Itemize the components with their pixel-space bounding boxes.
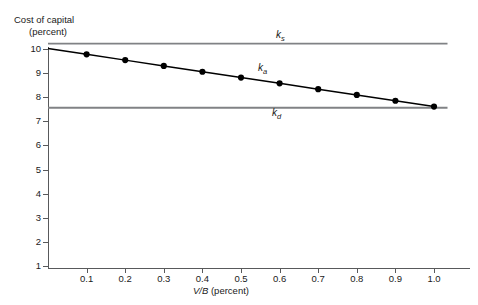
data-point-ka-0.4 <box>199 69 205 75</box>
x-axis-title: V/B (percent) <box>193 285 249 296</box>
x-axis-title-plain: (percent) <box>208 285 249 296</box>
data-point-ka-0.2 <box>122 57 128 63</box>
plot-area <box>0 0 478 305</box>
curve-label-kd: kd <box>272 107 281 121</box>
chart-figure: Cost of capital (percent) 12345678910 0.… <box>0 0 478 305</box>
data-point-ka-0.6 <box>277 80 283 86</box>
curve-label-ks: ks <box>276 29 285 43</box>
data-point-ka-0.1 <box>84 51 90 57</box>
data-point-ka-0.7 <box>315 86 321 92</box>
curve-label-ka: ka <box>258 62 267 76</box>
data-point-ka-0.8 <box>354 92 360 98</box>
curve-label-ks-sub: s <box>281 34 285 43</box>
curve-label-ka-sub: a <box>263 67 267 76</box>
data-point-ka-1.0 <box>431 103 437 109</box>
data-point-ka-0.5 <box>238 74 244 80</box>
data-point-ka-0.9 <box>392 98 398 104</box>
data-point-ka-0.3 <box>161 63 167 69</box>
x-axis-title-italic: V/B <box>193 285 208 296</box>
curve-label-kd-sub: d <box>277 112 281 121</box>
series-ka <box>48 49 437 110</box>
